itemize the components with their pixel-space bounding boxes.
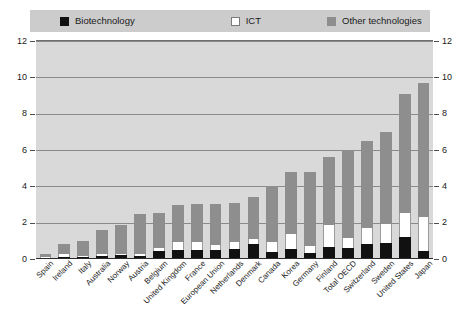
bar-segment-other-technologies xyxy=(210,204,222,246)
y-axis-tick-label-right: 10 xyxy=(442,73,452,82)
y-tick-mark xyxy=(30,259,35,260)
bar-segment-other-technologies xyxy=(418,83,430,217)
legend-label-biotechnology: Biotechnology xyxy=(75,16,135,26)
bar-segment-other-technologies xyxy=(134,214,146,255)
y-tick-mark xyxy=(30,186,35,187)
y-tick-mark xyxy=(434,223,439,224)
y-axis-tick-label-right: 0 xyxy=(442,255,447,264)
y-tick-mark xyxy=(30,114,35,115)
legend-item-other-technologies: Other technologies xyxy=(327,16,422,26)
bar-column[interactable] xyxy=(115,225,127,260)
legend-swatch-other-technologies-icon xyxy=(327,17,336,26)
bar-segment-ict xyxy=(266,242,278,252)
bar-segment-other-technologies xyxy=(96,230,108,254)
bar-column[interactable] xyxy=(418,83,430,259)
bar-segment-other-technologies xyxy=(323,157,335,224)
y-axis-tick-label-left: 8 xyxy=(22,109,27,118)
bar-column[interactable] xyxy=(77,241,89,259)
y-tick-mark xyxy=(434,114,439,115)
bar-segment-ict xyxy=(380,224,392,243)
bar-segment-other-technologies xyxy=(58,244,70,255)
bar-segment-other-technologies xyxy=(342,150,354,238)
bar-segment-other-technologies xyxy=(285,172,297,234)
bar-segment-other-technologies xyxy=(266,186,278,241)
bar-column[interactable] xyxy=(285,172,297,259)
y-tick-mark xyxy=(434,77,439,78)
chart-legend: Biotechnology ICT Other technologies xyxy=(30,10,430,32)
bar-segment-ict xyxy=(229,242,241,249)
bar-column[interactable] xyxy=(96,230,108,259)
y-tick-mark xyxy=(30,77,35,78)
y-axis-tick-label-right: 2 xyxy=(442,218,447,227)
legend-item-biotechnology: Biotechnology xyxy=(60,16,135,26)
bar-column[interactable] xyxy=(248,197,260,259)
x-axis-labels: SpainIrelandItalyAustraliaNorwayAustriaB… xyxy=(36,259,433,332)
bar-segment-ict xyxy=(399,213,411,238)
y-axis-tick-label-right: 8 xyxy=(442,109,447,118)
bar-segment-biotechnology xyxy=(248,244,260,259)
bar-column[interactable] xyxy=(191,204,203,259)
bar-segment-other-technologies xyxy=(115,225,127,254)
bar-column[interactable] xyxy=(323,157,335,259)
bar-segment-biotechnology xyxy=(380,243,392,259)
y-axis-tick-label-left: 12 xyxy=(17,37,27,46)
legend-item-ict: ICT xyxy=(231,16,261,26)
plot-area: 002244668810101212 xyxy=(36,40,433,259)
bar-segment-biotechnology xyxy=(399,237,411,259)
bar-segment-other-technologies xyxy=(361,141,373,228)
bar-segment-other-technologies xyxy=(191,204,203,242)
bar-column[interactable] xyxy=(172,205,184,259)
y-axis-tick-label-left: 4 xyxy=(22,182,27,191)
bar-segment-other-technologies xyxy=(248,197,260,239)
bar-column[interactable] xyxy=(210,204,222,259)
bar-column[interactable] xyxy=(229,203,241,259)
y-axis-tick-label-right: 12 xyxy=(442,37,452,46)
y-tick-mark xyxy=(434,259,439,260)
bar-segment-other-technologies xyxy=(229,203,241,242)
bar-segment-other-technologies xyxy=(153,213,165,248)
bar-column[interactable] xyxy=(153,213,165,259)
y-axis-tick-label-left: 0 xyxy=(22,255,27,264)
chart-root: Biotechnology ICT Other technologies 002… xyxy=(0,0,467,332)
legend-label-ict: ICT xyxy=(246,16,261,26)
y-axis-tick-label-left: 6 xyxy=(22,146,27,155)
y-axis-tick-label-left: 10 xyxy=(17,73,27,82)
bars-layer xyxy=(36,41,433,259)
bar-segment-other-technologies xyxy=(77,241,89,256)
legend-swatch-biotechnology-icon xyxy=(60,17,69,26)
bar-column[interactable] xyxy=(399,94,411,259)
y-axis-tick-label-left: 2 xyxy=(22,218,27,227)
bar-segment-ict xyxy=(361,228,373,243)
x-axis-tick-label: Ireland xyxy=(51,259,75,283)
y-tick-mark xyxy=(30,41,35,42)
y-tick-mark xyxy=(434,41,439,42)
y-tick-mark xyxy=(434,150,439,151)
y-axis-tick-label-right: 6 xyxy=(442,146,447,155)
bar-segment-ict xyxy=(418,217,430,251)
bar-segment-other-technologies xyxy=(172,205,184,241)
y-tick-mark xyxy=(30,223,35,224)
bar-column[interactable] xyxy=(342,150,354,259)
y-tick-mark xyxy=(30,150,35,151)
bar-column[interactable] xyxy=(134,214,146,259)
bar-segment-biotechnology xyxy=(361,244,373,259)
bar-column[interactable] xyxy=(380,132,392,259)
legend-label-other-technologies: Other technologies xyxy=(342,16,422,26)
y-tick-mark xyxy=(434,186,439,187)
bar-column[interactable] xyxy=(266,186,278,259)
legend-swatch-ict-icon xyxy=(231,17,240,26)
bar-column[interactable] xyxy=(361,141,373,259)
bar-column[interactable] xyxy=(304,172,316,259)
x-axis-tick-label: Japan xyxy=(412,259,434,281)
bar-segment-ict xyxy=(342,238,354,248)
bar-segment-other-technologies xyxy=(380,132,392,224)
bar-segment-ict xyxy=(285,234,297,249)
bar-segment-other-technologies xyxy=(399,94,411,213)
bar-column[interactable] xyxy=(58,244,70,259)
bar-segment-ict xyxy=(172,242,184,250)
bar-segment-ict xyxy=(191,242,203,250)
bar-segment-ict xyxy=(323,225,335,248)
bar-segment-other-technologies xyxy=(304,172,316,246)
y-axis-tick-label-right: 4 xyxy=(442,182,447,191)
